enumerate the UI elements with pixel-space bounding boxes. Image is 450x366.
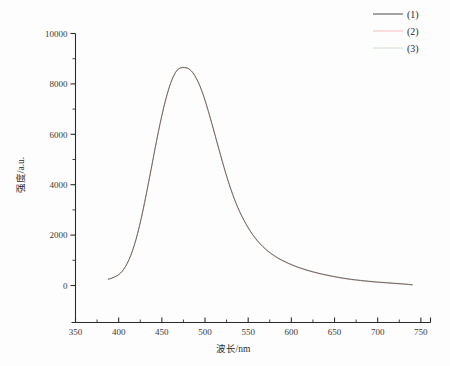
y-tick-label: 8000 xyxy=(50,79,69,89)
x-tick-label: 700 xyxy=(371,327,385,337)
legend-label-2: (2) xyxy=(407,26,419,38)
chart-figure: 0200040006000800010000 35040045050055060… xyxy=(0,0,450,366)
x-tick-label: 600 xyxy=(285,327,299,337)
y-tick-label: 10000 xyxy=(45,29,68,39)
x-tick-label: 550 xyxy=(241,327,255,337)
legend-label-1: (1) xyxy=(407,9,419,21)
x-tick-label: 500 xyxy=(198,327,212,337)
legend-label-3: (3) xyxy=(407,43,419,55)
x-tick-label: 400 xyxy=(112,327,126,337)
spectrum-plot: 0200040006000800010000 35040045050055060… xyxy=(0,0,450,366)
y-axis-title: 强度/a.u. xyxy=(15,157,26,193)
x-axis-title: 波长/nm xyxy=(216,343,251,354)
x-tick-label: 750 xyxy=(414,327,428,337)
y-tick-label: 2000 xyxy=(50,230,69,240)
y-tick-label: 0 xyxy=(63,281,68,291)
y-tick-label: 6000 xyxy=(50,130,69,140)
x-tick-label: 450 xyxy=(155,327,169,337)
x-tick-label: 650 xyxy=(328,327,342,337)
x-tick-label: 350 xyxy=(69,327,83,337)
plot-background xyxy=(0,0,450,366)
y-tick-label: 4000 xyxy=(50,180,69,190)
